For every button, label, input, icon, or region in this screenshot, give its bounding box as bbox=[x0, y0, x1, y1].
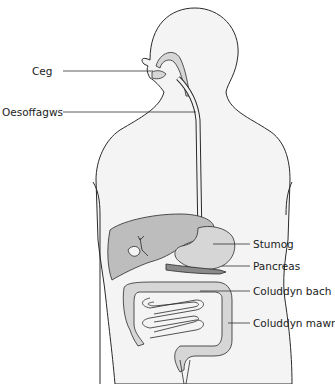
label-stomach: Stumog bbox=[253, 238, 294, 250]
label-oesophagus: Oesoffagws bbox=[2, 106, 63, 118]
label-mouth: Ceg bbox=[32, 65, 52, 77]
label-pancreas: Pancreas bbox=[253, 260, 300, 272]
label-large-intestine: Coluddyn mawr bbox=[253, 317, 335, 329]
label-small-intestine: Coluddyn bach bbox=[253, 285, 331, 297]
